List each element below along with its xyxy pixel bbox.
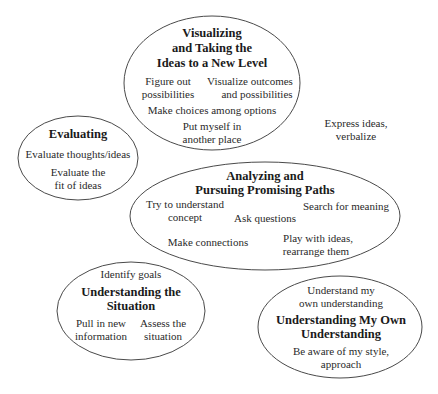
item-text: concept	[168, 211, 202, 223]
item-text: Search for meaning	[303, 200, 390, 212]
free-text-line: verbalize	[336, 130, 376, 142]
title-line: Situation	[107, 299, 156, 313]
node-evaluating: Evaluating Evaluate thoughts/ideas Evalu…	[18, 116, 138, 200]
item-text: Try to understand	[146, 198, 224, 210]
item-text: Assess the	[140, 317, 186, 329]
free-text-line: Express ideas,	[325, 117, 388, 129]
title-line: Ideas to a New Level	[157, 56, 268, 70]
title-line: and Taking the	[172, 41, 252, 55]
item-text: approach	[321, 358, 362, 370]
item-text: Understand my	[307, 284, 375, 296]
item-text: Visualize outcomes	[207, 75, 293, 87]
item-text: situation	[144, 330, 182, 342]
item-text: fit of ideas	[54, 179, 101, 191]
item-text: possibilities	[142, 88, 195, 100]
title-line: Evaluating	[49, 127, 108, 141]
diagram-canvas: Visualizing and Taking the Ideas to a Ne…	[0, 0, 438, 394]
item-text: Evaluate the	[51, 166, 106, 178]
item-text: and possibilities	[221, 88, 292, 100]
free-text-express: Express ideas, verbalize	[325, 117, 388, 142]
item-text: Put myself in	[183, 120, 242, 132]
node-analyzing: Analyzing and Pursuing Promising Paths T…	[130, 162, 400, 270]
title-line: Understanding the	[81, 285, 181, 299]
item-text: Pull in new	[76, 317, 126, 329]
node-understanding-situation: Identify goals Understanding the Situati…	[57, 262, 205, 360]
title-line: Pursuing Promising Paths	[195, 183, 335, 197]
title-line: Understanding	[301, 327, 382, 341]
item-text: Play with ideas,	[283, 232, 353, 244]
item-text: rearrange them	[283, 245, 350, 257]
item-text: Make choices among options	[148, 104, 277, 116]
node-visualizing: Visualizing and Taking the Ideas to a Ne…	[124, 16, 300, 150]
item-text: Evaluate thoughts/ideas	[26, 148, 131, 160]
item-text: own understanding	[299, 297, 384, 309]
item-text: Figure out	[145, 75, 191, 87]
item-text: Make connections	[168, 236, 248, 248]
title-line: Understanding My Own	[276, 313, 406, 327]
title-line: Visualizing	[182, 26, 242, 40]
title-line: Analyzing and	[226, 169, 304, 183]
item-text: another place	[183, 133, 242, 145]
node-understanding-own: Understand my own understanding Understa…	[258, 276, 422, 378]
item-text: Identify goals	[101, 268, 162, 280]
item-text: Be aware of my style,	[293, 345, 389, 357]
item-text: Ask questions	[234, 212, 296, 224]
item-text: information	[75, 330, 127, 342]
